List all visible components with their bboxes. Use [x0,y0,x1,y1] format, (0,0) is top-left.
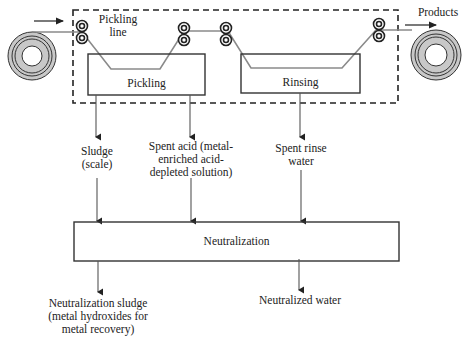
spent-rinse-label-line2: water [268,155,334,168]
roller-pair-pickling-exit-icon [179,23,190,46]
spent-acid-label-line2: enriched acid- [145,153,237,166]
neutralization-sludge-line3: metal recovery) [40,323,156,336]
products-label: Products [410,6,466,19]
rinsing-tank-label: Rinsing [241,76,360,89]
neutralization-sludge-line1: Neutralization sludge [40,297,156,310]
spent-acid-label: Spent acid (metal- enriched acid- deplet… [145,140,237,179]
pickling-line-label: Pickling line [96,13,140,39]
sludge-label-line1: Sludge [66,145,128,158]
pickling-tank-label: Pickling [88,77,205,90]
spent-rinse-label: Spent rinse water [268,142,334,168]
recoiler-coil-icon [411,30,461,80]
uncoiler-coil-icon [8,32,56,80]
sludge-label: Sludge (scale) [66,145,128,171]
spent-rinse-label-line1: Spent rinse [268,142,334,155]
spent-acid-label-line3: depleted solution) [145,166,237,179]
neutralization-sludge-label: Neutralization sludge (metal hydroxides … [40,297,156,336]
neutralized-water-label: Neutralized water [255,294,345,307]
neutralization-sludge-line2: (metal hydroxides for [40,310,156,323]
spent-acid-label-line1: Spent acid (metal- [145,140,237,153]
pickling-line-label-line1: Pickling [96,13,140,26]
neutralization-label: Neutralization [74,235,399,248]
sludge-label-line2: (scale) [66,158,128,171]
pickling-line-label-line2: line [96,26,140,39]
